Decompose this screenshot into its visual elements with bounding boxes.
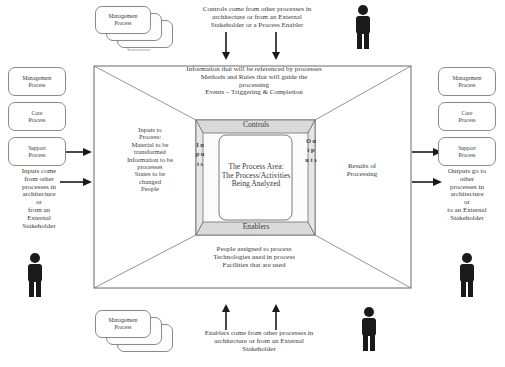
inputs-band-shape <box>196 120 203 235</box>
right-detail-text: Results of Processing <box>326 163 398 179</box>
right-box-management-label: Management Process <box>452 75 481 89</box>
right-destination-text: Outputs go to other processes in archite… <box>430 168 504 223</box>
bottom-stack-front-box[interactable]: Management Process <box>95 310 151 338</box>
left-box-support-process[interactable]: Support Process <box>8 137 66 166</box>
outputs-band-label: O u t p u t s <box>305 136 317 164</box>
controls-arrow-group <box>222 32 280 60</box>
bottom-process-stack[interactable]: Support Process Core Process Management … <box>95 308 175 354</box>
left-detail-text: Inputs to Process: Material to be transf… <box>108 126 192 192</box>
diagram-canvas: Support Process Core Process Management … <box>0 0 505 367</box>
left-box-management-process[interactable]: Management Process <box>8 67 66 96</box>
controls-band-label: Controls <box>220 121 292 130</box>
enablers-band-label: Enablers <box>220 223 292 232</box>
right-box-core-process[interactable]: Core Process <box>438 102 496 131</box>
person-icon-bottom-right <box>358 306 380 352</box>
process-area-label: The Process Area: The Process/Activities… <box>220 163 292 189</box>
right-box-management-process[interactable]: Management Process <box>438 67 496 96</box>
bottom-stack-front-label: Management Process <box>108 317 137 331</box>
right-box-support-label: Support Process <box>458 145 476 159</box>
top-stack-front-label: Management Process <box>108 13 137 27</box>
bottom-callout-text: Enablers come from other processes in ar… <box>170 330 348 353</box>
person-icon-right <box>456 252 478 298</box>
top-detail-text: Information that will be referenced by p… <box>148 66 360 97</box>
bottom-detail-text: People assigned to process Technologies … <box>160 246 348 269</box>
left-box-support-label: Support Process <box>28 145 46 159</box>
left-box-management-label: Management Process <box>22 75 51 89</box>
left-box-core-process[interactable]: Core Process <box>8 102 66 131</box>
inputs-band-label: I n p u t s <box>194 140 206 168</box>
enablers-arrow-group <box>222 304 280 330</box>
person-icon-top-right <box>352 4 374 50</box>
top-process-stack[interactable]: Support Process Core Process Management … <box>95 4 175 50</box>
top-stack-front-box[interactable]: Management Process <box>95 6 151 34</box>
left-box-core-label: Core Process <box>28 110 45 124</box>
right-box-support-process[interactable]: Support Process <box>438 137 496 166</box>
left-source-text: Inputs come from other processes in arch… <box>2 168 76 231</box>
right-box-core-label: Core Process <box>458 110 475 124</box>
person-icon-left <box>24 252 46 298</box>
top-callout-text: Controls come from other processes in ar… <box>178 6 336 29</box>
